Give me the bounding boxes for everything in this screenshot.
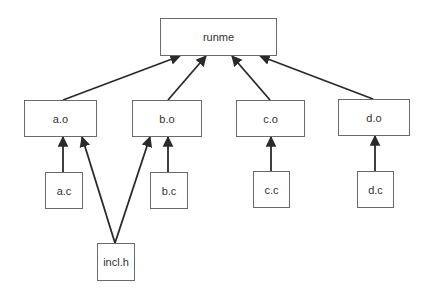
node-a-c: a.c bbox=[45, 172, 83, 209]
edge-b-o-to-runme bbox=[168, 56, 206, 100]
node-label: a.o bbox=[53, 113, 68, 125]
node-label: c.o bbox=[263, 113, 278, 125]
edge-incl-h-to-b-o bbox=[115, 137, 150, 243]
node-label: c.c bbox=[264, 184, 278, 196]
node-label: d.o bbox=[366, 112, 381, 124]
edge-incl-h-to-a-o bbox=[82, 137, 115, 243]
node-incl-h: incl.h bbox=[97, 243, 135, 281]
edge-c-o-to-runme bbox=[232, 56, 270, 100]
node-a-o: a.o bbox=[24, 100, 97, 137]
node-b-c: b.c bbox=[150, 172, 188, 209]
node-label: d.c bbox=[368, 184, 383, 196]
edge-d-o-to-runme bbox=[260, 56, 373, 99]
node-label: runme bbox=[203, 31, 234, 43]
node-runme: runme bbox=[160, 18, 277, 56]
node-d-o: d.o bbox=[338, 99, 410, 136]
node-c-c: c.c bbox=[253, 171, 290, 208]
node-d-c: d.c bbox=[357, 171, 394, 208]
node-label: b.c bbox=[162, 185, 177, 197]
node-label: incl.h bbox=[103, 256, 129, 268]
node-label: a.c bbox=[57, 185, 72, 197]
node-b-o: b.o bbox=[132, 100, 202, 137]
node-label: b.o bbox=[159, 113, 174, 125]
edge-a-o-to-runme bbox=[63, 56, 180, 100]
edges-layer bbox=[63, 56, 375, 243]
node-c-o: c.o bbox=[236, 100, 305, 137]
